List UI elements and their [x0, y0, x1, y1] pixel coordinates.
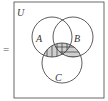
universe-label: U	[17, 7, 25, 18]
venn-diagram: = U A B C	[0, 0, 108, 101]
set-c-label: C	[55, 72, 62, 83]
set-a-label: A	[35, 33, 43, 44]
set-b-label: B	[74, 33, 80, 44]
equals-sign: =	[3, 43, 9, 55]
